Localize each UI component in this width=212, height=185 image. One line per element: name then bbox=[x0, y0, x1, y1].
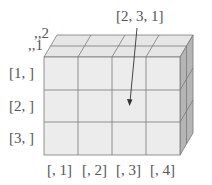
row-label-2: [2, ] bbox=[9, 98, 34, 114]
col-label-3: [, 3] bbox=[116, 162, 141, 178]
col-label-4: [, 4] bbox=[150, 162, 175, 178]
side-face bbox=[180, 35, 193, 155]
row-label-3: [3, ] bbox=[9, 130, 34, 146]
top-face bbox=[44, 35, 193, 57]
layer-label-1: ,,1 bbox=[28, 37, 43, 53]
col-label-2: [, 2] bbox=[82, 162, 107, 178]
col-label-1: [, 1] bbox=[47, 162, 72, 178]
callout-label: [2, 3, 1] bbox=[116, 8, 164, 24]
row-label-1: [1, ] bbox=[9, 65, 34, 81]
front-face bbox=[44, 57, 180, 155]
array-diagram: [2, 3, 1] ,,2 ,,1 [1, ] [2, ] [3, ] [, 1… bbox=[0, 0, 212, 185]
